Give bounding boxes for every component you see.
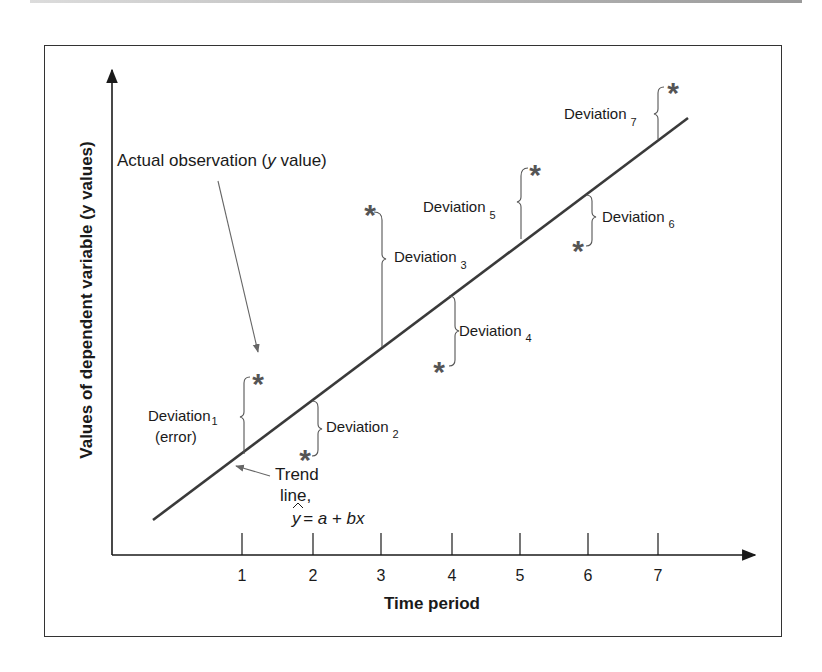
observation-marker: * [433,355,445,388]
observation-markers: * * * * * * * [252,76,679,476]
deviation-1-error-label: (error) [155,428,197,445]
x-tick-labels: 1 2 3 4 5 6 7 [238,567,663,584]
equation-yhat: y [291,509,302,528]
deviation-braces [240,87,664,456]
y-axis-title: Values of dependent variable (y values) [77,141,96,458]
x-tick-label: 2 [309,567,318,584]
x-tick-label: 4 [448,567,457,584]
x-axis-title: Time period [384,594,480,613]
x-tick-label: 7 [654,567,663,584]
x-tick-label: 1 [238,567,247,584]
deviation-1-label: Deviation1 [148,407,218,427]
observation-marker: * [364,198,376,231]
observation-marker: * [572,234,584,267]
trend-line [153,118,688,520]
deviation-6-label: Deviation6 [602,208,675,230]
deviation-4-label: Deviation4 [459,322,532,344]
equation-rest: = a + bx [303,509,365,528]
x-ticks [242,533,658,555]
deviation-5-label: Deviation5 [423,198,496,221]
observation-marker: * [252,367,264,400]
deviation-7-label: Deviation7 [564,105,637,128]
trend-line-label-1: Trend [275,465,319,484]
x-tick-label: 3 [377,567,386,584]
x-tick-label: 5 [516,567,525,584]
actual-observation-label: Actual observation (y value) [117,151,327,170]
observation-marker: * [667,76,679,109]
trend-equation: y = a + bx [291,503,365,528]
trend-line-label-2: line, [280,486,311,505]
deviation-2-label: Deviation2 [326,418,399,440]
trend-line-pointer [236,466,270,476]
x-tick-label: 6 [584,567,593,584]
observation-marker: * [529,158,541,191]
deviation-3-label: Deviation3 [394,248,467,271]
actual-observation-pointer [218,181,258,352]
trend-deviation-diagram: 1 2 3 4 5 6 7 Time period Values of depe… [0,0,822,672]
